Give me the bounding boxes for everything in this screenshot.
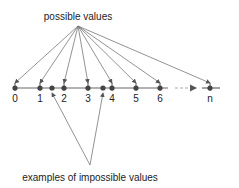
- impossible-arrow: [90, 93, 103, 165]
- possible-point: [207, 85, 212, 90]
- impossible-value-arrows: [52, 93, 103, 165]
- tick-label: 0: [12, 93, 18, 104]
- possible-value-arrows: [15, 26, 210, 83]
- possible-points: [12, 83, 212, 91]
- possible-arrow: [78, 26, 160, 83]
- possible-point: [85, 85, 90, 90]
- tick-label: n: [207, 93, 213, 104]
- possible-point: [61, 85, 66, 90]
- number-line-diagram: possible values 0123456n examples of imp…: [0, 0, 239, 188]
- tick-labels: 0123456n: [12, 93, 213, 104]
- possible-point: [37, 85, 42, 90]
- possible-arrow: [15, 26, 78, 83]
- possible-point: [109, 85, 114, 90]
- possible-arrow: [64, 26, 78, 83]
- tick-label: 5: [133, 93, 139, 104]
- possible-values-label: possible values: [44, 11, 112, 22]
- possible-point: [157, 85, 162, 90]
- tick-label: 3: [85, 93, 91, 104]
- impossible-point: [100, 85, 105, 90]
- tick-label: 1: [37, 93, 43, 104]
- possible-point: [12, 85, 17, 90]
- possible-arrow: [78, 26, 210, 83]
- impossible-values-label: examples of impossible values: [22, 172, 158, 183]
- possible-point: [133, 85, 138, 90]
- impossible-point: [49, 85, 54, 90]
- tick-label: 6: [157, 93, 163, 104]
- tick-label: 2: [61, 93, 67, 104]
- tick-label: 4: [109, 93, 115, 104]
- possible-arrow: [40, 26, 78, 83]
